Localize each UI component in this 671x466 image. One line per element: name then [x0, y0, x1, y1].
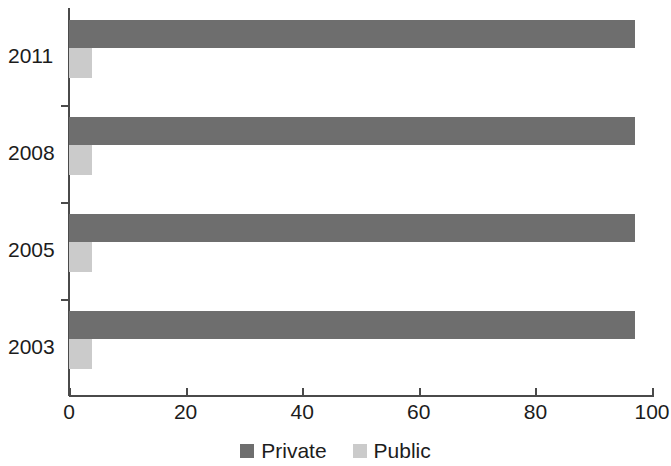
x-axis-tick — [186, 388, 188, 397]
bar-public — [69, 242, 92, 272]
legend-swatch-icon — [240, 444, 254, 458]
x-axis-tick-label: 0 — [63, 400, 75, 424]
plot-area — [69, 8, 652, 396]
bar-public — [69, 145, 92, 175]
bar-private — [69, 311, 635, 339]
bar-private — [69, 20, 635, 48]
x-axis-tick-label: 40 — [291, 400, 314, 424]
y-axis-category-label: 2003 — [8, 335, 60, 359]
legend-swatch-icon — [353, 444, 367, 458]
legend-label: Public — [374, 440, 431, 461]
y-axis-category-label: 2008 — [8, 141, 60, 165]
x-axis-tick — [302, 388, 304, 397]
legend-entry: Private — [240, 440, 326, 461]
x-axis-tick-label: 60 — [407, 400, 430, 424]
legend-label: Private — [261, 440, 326, 461]
x-axis-tick — [419, 388, 421, 397]
bar-chart: 2011200820052003 020406080100 PrivatePub… — [0, 0, 671, 466]
x-axis-tick — [652, 388, 654, 397]
legend-entry: Public — [353, 440, 431, 461]
x-axis-tick-label: 20 — [174, 400, 197, 424]
x-axis-tick-label: 100 — [634, 400, 669, 424]
chart-legend: PrivatePublic — [0, 440, 671, 461]
bar-private — [69, 117, 635, 145]
x-axis-tick — [69, 388, 71, 397]
x-axis-tick-label: 80 — [524, 400, 547, 424]
bar-public — [69, 48, 92, 78]
bar-public — [69, 339, 92, 369]
y-axis-category-label: 2011 — [8, 44, 60, 68]
y-axis-category-label: 2005 — [8, 238, 60, 262]
x-axis-tick — [535, 388, 537, 397]
bar-private — [69, 214, 635, 242]
